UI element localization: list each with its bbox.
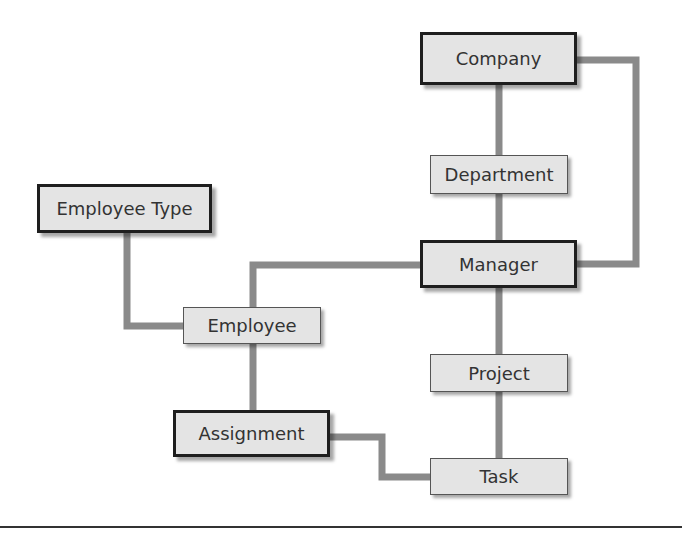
entity-department[interactable]: Department bbox=[430, 155, 568, 194]
entity-project[interactable]: Project bbox=[430, 354, 568, 392]
entity-label: Project bbox=[468, 363, 530, 384]
entity-label: Assignment bbox=[199, 423, 305, 444]
entity-label: Department bbox=[445, 164, 554, 185]
connector-employeetype-employee bbox=[127, 233, 183, 326]
entity-label: Manager bbox=[459, 254, 538, 275]
entity-assignment[interactable]: Assignment bbox=[173, 410, 330, 457]
entity-label: Employee Type bbox=[56, 198, 192, 219]
entity-label: Task bbox=[480, 466, 519, 487]
entity-label: Company bbox=[456, 48, 542, 69]
er-diagram: Company Department Employee Type Manager… bbox=[0, 0, 682, 536]
entity-label: Employee bbox=[207, 315, 296, 336]
connector-company-manager bbox=[577, 60, 636, 264]
entity-manager[interactable]: Manager bbox=[420, 240, 577, 288]
entity-employee-type[interactable]: Employee Type bbox=[37, 184, 212, 233]
connector-manager-employee bbox=[253, 265, 420, 307]
connector-assignment-task bbox=[330, 437, 430, 477]
entity-task[interactable]: Task bbox=[430, 458, 568, 495]
connectors-layer bbox=[0, 0, 682, 536]
bottom-divider bbox=[0, 526, 682, 528]
entity-employee[interactable]: Employee bbox=[183, 307, 321, 344]
entity-company[interactable]: Company bbox=[420, 32, 577, 85]
